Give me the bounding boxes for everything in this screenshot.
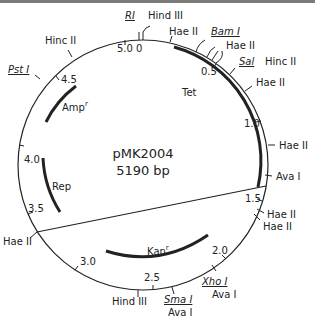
- scale-label: 1.5: [245, 193, 261, 204]
- scale-label: 2.0: [212, 245, 228, 256]
- scale-label: 4.0: [24, 154, 40, 165]
- plasmid-name: pMK2004: [112, 146, 173, 161]
- site-label-sali: Sal: [239, 56, 254, 67]
- site-label-xhoi: Xho I: [201, 276, 227, 287]
- site-label-ecori: RI: [125, 10, 135, 21]
- scale-label: 4.5: [61, 74, 77, 85]
- site-label-hindiii: Hind III: [112, 296, 147, 307]
- site-label-haeii: Hae II: [256, 77, 285, 88]
- site-label-avai: Ava I: [168, 307, 192, 318]
- site-label-avai: Ava I: [276, 171, 300, 182]
- site-label-haeii: Hae II: [169, 26, 198, 37]
- site-label-haeii: Hae II: [263, 221, 292, 232]
- site-label-haeii: Hae II: [279, 140, 308, 151]
- scale-label: 0.5: [201, 66, 217, 77]
- gene-label-tet: Tet: [181, 87, 197, 98]
- site-label-haeii: Hae II: [3, 236, 32, 247]
- site-label-haeii: Hae II: [267, 209, 296, 220]
- gene-label-rep: Rep: [52, 181, 71, 192]
- site-label-haeii: Hae II: [226, 40, 255, 51]
- scale-label: 3.5: [28, 203, 44, 214]
- gene-label-amp: Ampr: [62, 100, 88, 113]
- site-label-avai: Ava I: [212, 289, 236, 300]
- site-label-smai: Sma I: [164, 294, 192, 305]
- gene-label-kan: Kanr: [147, 244, 169, 257]
- plasmid-map: pMK2004 5190 bp 5.0 0 0.5 1.0 1.5 2.0 2.…: [0, 0, 315, 325]
- site-label-psti: Pst I: [8, 64, 29, 75]
- site-label-hincii: Hinc II: [45, 35, 76, 46]
- site-label-bami: Bam I: [211, 26, 240, 37]
- scale-label: 1.0: [244, 118, 260, 129]
- site-label-hindiii: Hind III: [148, 10, 183, 21]
- tet-gene-arc: [174, 47, 261, 187]
- scale-label: 5.0 0: [117, 43, 142, 54]
- scale-label: 3.0: [80, 256, 96, 267]
- scale-label: 2.5: [144, 272, 160, 283]
- site-label-hincii: Hinc II: [265, 56, 296, 67]
- insert-chord: [37, 186, 266, 232]
- plasmid-size: 5190 bp: [116, 163, 170, 178]
